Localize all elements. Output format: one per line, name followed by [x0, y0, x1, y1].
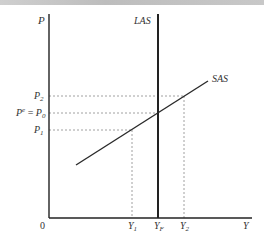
p2-label: P2 — [33, 90, 44, 103]
y2-label: Y2 — [180, 220, 190, 233]
yf-label: YF — [154, 220, 165, 233]
las-sas-diagram: P LAS SAS P2 Pe = P0 P1 0 Y1 YF Y2 Y — [0, 0, 264, 246]
pe-p0-label: Pe = P0 — [15, 106, 46, 120]
y-axis-label: P — [37, 14, 45, 26]
origin-label: 0 — [40, 220, 45, 231]
las-label: LAS — [133, 15, 151, 26]
sas-label: SAS — [212, 73, 228, 84]
y1-label: Y1 — [128, 220, 137, 233]
sas-curve — [76, 81, 208, 165]
p1-label: P1 — [33, 124, 44, 137]
x-axis-label: Y — [243, 220, 250, 231]
guide-lines — [49, 96, 184, 218]
